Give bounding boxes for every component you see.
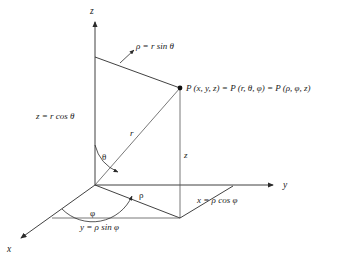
rho-sin-theta-label: ρ = r sin θ: [135, 41, 174, 51]
point-P-marker: [178, 86, 183, 91]
segment-z-label: z: [183, 150, 188, 160]
angle-theta-label: θ: [102, 152, 106, 162]
segment-rho-label: ρ: [139, 190, 144, 200]
angle-phi-label: φ: [90, 208, 95, 218]
point-P-label: P (x, y, z) = P (r, θ, φ) = P (ρ, φ, z): [185, 83, 311, 93]
angle-arc-theta: [95, 145, 118, 172]
x-cos-phi-label: x = ρ cos φ: [196, 195, 237, 205]
axis-label-y: y: [282, 180, 288, 190]
segment-r: [95, 88, 180, 185]
coordinate-figure-svg: z y x P (x, y, z) = P (r, θ, φ) = P (ρ, …: [0, 0, 345, 264]
leader-line-rho-sin: [120, 50, 134, 63]
upper-rho-segment: [95, 57, 180, 88]
segment-rho-base: [95, 185, 180, 218]
segment-r-label: r: [130, 128, 134, 138]
coordinate-diagram: z y x P (x, y, z) = P (r, θ, φ) = P (ρ, …: [0, 0, 345, 264]
y-sin-phi-label: y = ρ sin φ: [79, 222, 119, 232]
axis-label-x: x: [6, 244, 12, 254]
z-cos-theta-label: z = r cos θ: [35, 111, 75, 121]
axis-label-z: z: [89, 6, 94, 16]
